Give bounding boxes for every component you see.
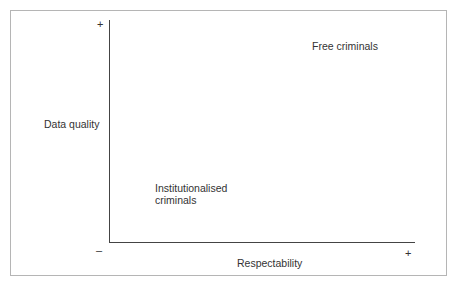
y-axis-label: Data quality	[44, 118, 99, 130]
x-axis-label: Respectability	[237, 257, 302, 269]
label-free-criminals: Free criminals	[312, 40, 378, 52]
x-axis-plus: +	[405, 248, 411, 259]
y-axis-line	[109, 20, 110, 243]
label-institutionalised-line1: Institutionalised	[155, 182, 227, 194]
axis-minus: –	[96, 245, 102, 256]
x-axis-line	[109, 242, 415, 243]
label-institutionalised-line2: criminals	[155, 194, 196, 206]
y-axis-plus: +	[97, 19, 103, 30]
diagram-frame	[10, 10, 447, 276]
